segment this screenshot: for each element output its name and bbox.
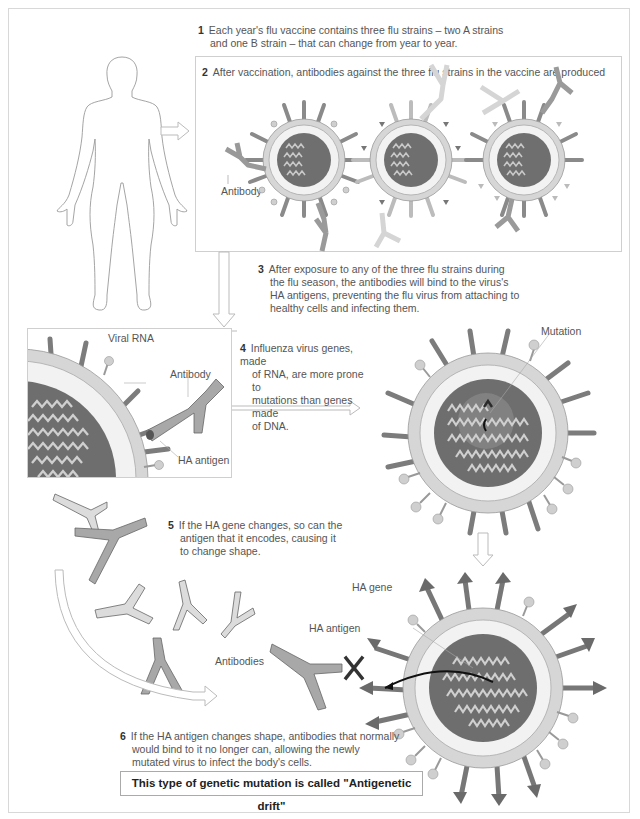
vaccine-antibodies-panel: 2After vaccination, antibodies against t… <box>195 56 622 252</box>
virus-strain-2 <box>353 102 469 216</box>
antibody-panel-label: Antibody <box>170 368 211 380</box>
step-6-text: 6If the HA antigen changes shape, antibo… <box>120 730 430 769</box>
down-arrow-icon <box>212 252 236 328</box>
right-arrow-icon <box>160 121 190 141</box>
ha-gene-label: HA gene <box>352 581 392 593</box>
mutation-label: Mutation <box>541 325 581 337</box>
antigenetic-drift-callout: This type of genetic mutation is called … <box>120 771 423 796</box>
antibodies-label: Antibodies <box>215 655 264 667</box>
step-4-text: 4Influenza virus genes, made of RNA, are… <box>240 342 370 433</box>
antibody-binding-panel: Viral RNA Antibody HA antigen <box>27 328 232 478</box>
virus-strain-3 <box>466 102 582 216</box>
virus-strain-1 <box>246 102 362 216</box>
mutation-virus-illustration <box>370 320 610 530</box>
step-1-text: 1Each year's flu vaccine contains three … <box>198 24 598 50</box>
viral-rna-label: Viral RNA <box>108 332 154 344</box>
ha-antigen-label: HA antigen <box>178 454 229 466</box>
step-3-text: 3After exposure to any of the three flu … <box>258 263 618 315</box>
human-body-icon <box>55 55 190 315</box>
three-virus-strains-illustration <box>196 57 623 253</box>
ha-antigen-mutated-label: HA antigen <box>309 622 360 634</box>
